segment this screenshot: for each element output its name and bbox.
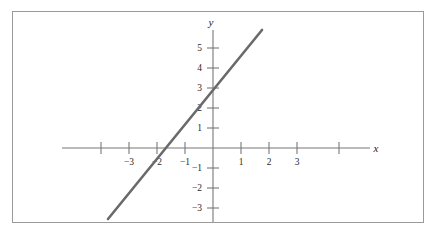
x-tick-label-3: 3 bbox=[295, 157, 300, 167]
y-tick-label-4: 4 bbox=[197, 63, 202, 73]
y-tick-label--1: −1 bbox=[192, 163, 202, 173]
y-tick-label-1: 1 bbox=[197, 123, 202, 133]
y-axis-label: y bbox=[208, 16, 214, 28]
y-tick-labels: 5 4 3 2 1 −1 −2 −3 bbox=[192, 43, 202, 213]
line-series-y-equals-2x-plus-3 bbox=[108, 30, 262, 219]
y-tick-label-3: 3 bbox=[197, 83, 202, 93]
x-tick-label--3: −3 bbox=[124, 157, 134, 167]
x-tick-label--1: −1 bbox=[180, 157, 190, 167]
y-tick-label-5: 5 bbox=[197, 43, 202, 53]
line-graph-plot: −3 −2 −1 1 2 3 5 4 3 2 1 −1 −2 −3 x y bbox=[0, 0, 433, 235]
figure-container: −3 −2 −1 1 2 3 5 4 3 2 1 −1 −2 −3 x y bbox=[0, 0, 433, 235]
x-tick-label-2: 2 bbox=[267, 157, 272, 167]
y-tick-label--3: −3 bbox=[192, 203, 202, 213]
y-tick-label--2: −2 bbox=[192, 183, 202, 193]
x-tick-label-1: 1 bbox=[239, 157, 244, 167]
x-axis-label: x bbox=[373, 142, 379, 154]
